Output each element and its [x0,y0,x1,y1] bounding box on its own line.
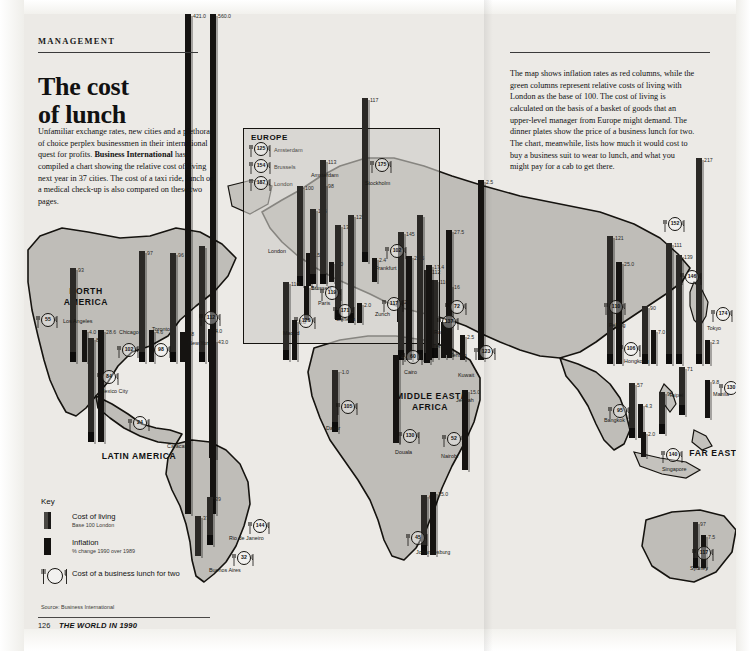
key-plate-icon [41,568,67,586]
fork-icon [249,177,253,189]
lunch-plate-icon: 125 [249,142,271,157]
bar-value-label: 111 [674,242,682,248]
key-label-inflation: Inflation [72,538,99,547]
title-line-1: The cost [38,72,129,101]
lunch-plate-icon: 117 [382,297,404,312]
source-note: Source: Business International [41,604,114,610]
city-label: Rio de Janeiro [229,535,264,541]
bar-value-label: 2.3 [712,339,719,345]
plate-disc: 144 [253,519,267,533]
bar-value-label: 113 [328,159,336,165]
city-label: Cairo [404,369,417,375]
bar-value-label: 15.0 [438,491,448,497]
key-swatch-inflation [44,538,51,555]
key-heading: Key [41,497,55,506]
lunch-plate-icon: 32 [232,551,254,566]
plate-disc: 84 [102,370,116,384]
knife-icon [638,343,642,355]
bar-base-cap [362,252,368,262]
plate-disc: 140 [666,448,680,462]
bar-value-label: 145 [406,231,415,237]
fork-icon [41,569,45,581]
plate-value: 55 [45,317,51,322]
bar-base-cap [283,350,289,360]
bar-base-cap [320,274,326,284]
bar-value-label: 139 [684,254,693,260]
city-label: Singapore [662,466,687,472]
plate-disc: 105 [341,400,355,414]
city-label: Madrid [283,330,299,336]
bar-value-label: 27.5 [454,229,464,235]
lunch-plate-icon: 174 [711,307,733,322]
fork-icon [385,245,389,257]
plate-value: 24 [137,420,143,425]
plate-value: 126 [302,318,311,323]
inflation-bar [705,380,710,418]
bar-value-label: 17.4 [434,264,444,270]
knife-icon [425,532,429,544]
plate-disc: 117 [697,546,711,560]
plate-value: 72 [454,304,460,309]
fork-icon [608,405,612,417]
bar-value-label: 7.5 [708,534,715,540]
lunch-plate-icon: 130 [398,429,420,444]
bar-value-label: 57 [637,382,643,388]
europe-key-city-label: Brussels [274,164,295,170]
lunch-plate-icon: 137 [437,315,459,330]
fork-icon [661,449,665,461]
section-kicker: MANAGEMENT [38,36,115,46]
knife-icon [355,401,359,413]
header-rule-left [38,52,198,53]
fork-icon [249,160,253,172]
region-label-line: AMERICA [46,297,126,308]
lunch-plate-icon: 52 [442,432,464,447]
plate-disc: 72 [450,300,464,314]
plate-value: 117 [700,550,708,555]
knife-icon [682,218,686,230]
bar-value-label: 2.0 [648,431,655,437]
inflation-bar [651,330,656,364]
plate-value: 102 [393,248,402,253]
cost-of-living-bar [666,243,672,364]
lunch-plate-icon: 144 [248,519,270,534]
city-label: Caracas [167,443,187,449]
plate-disc: 102 [122,343,136,357]
fork-icon [199,312,203,324]
plate-value: 45 [415,535,421,540]
city-label: Nairobi [441,453,458,459]
bar-value-label: 217 [704,157,713,163]
city-label: Amsterdam [311,172,339,178]
bar-value-label: 98 [328,183,334,189]
bar-value-label: 121 [615,235,624,241]
bar-value-label: 110 [291,281,299,287]
plate-disc: 112 [204,311,218,325]
inflation-bar [430,492,436,555]
key-sublabel-inflation: % change 1990 over 1989 [72,548,135,554]
bar-value-label: 7.0 [658,329,665,335]
inflation-bar [406,256,412,360]
europe-key-city-label: Amsterdam [274,147,303,153]
plate-value: 144 [256,523,265,528]
bar-base-cap [70,352,76,362]
lunch-plate-icon: 45 [406,531,428,546]
knife-icon [251,552,255,564]
plate-disc: 154 [254,159,268,173]
inflation-bar [705,340,710,364]
lunch-plate-icon: 154 [249,159,271,174]
knife-icon [401,298,405,310]
city-label: Dakar [326,425,340,431]
plate-value: 98 [158,347,164,352]
fork-icon [445,301,449,313]
fork-icon [36,314,40,326]
bar-value-label: 37 [203,515,209,521]
knife-icon [116,371,120,383]
inflation-bar [329,262,334,282]
lunch-plate-icon: 24 [128,416,150,431]
europe-key-city-label: London [274,181,293,187]
fork-icon [117,344,121,356]
bar-value-label: 96 [178,252,184,258]
key-label-lunch: Cost of a business lunch for two [72,569,182,578]
city-label: Mexico City [100,388,128,394]
fork-icon [249,143,253,155]
bar-value-label: 117 [370,97,378,103]
